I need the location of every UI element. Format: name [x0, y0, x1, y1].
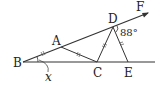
label-e: E	[124, 66, 133, 80]
segment-ac	[61, 47, 97, 62]
label-a: A	[51, 34, 61, 48]
label-x: x	[45, 70, 52, 84]
label-angle-88: 88°	[120, 27, 138, 38]
label-c: C	[93, 66, 102, 80]
label-d: D	[108, 12, 118, 26]
angle-x-arc	[37, 57, 38, 63]
label-b: B	[13, 56, 22, 70]
angle-88-arc	[116, 26, 118, 33]
label-f: F	[136, 0, 144, 14]
geometry-diagram: B A C D E F 88° x	[0, 0, 165, 87]
